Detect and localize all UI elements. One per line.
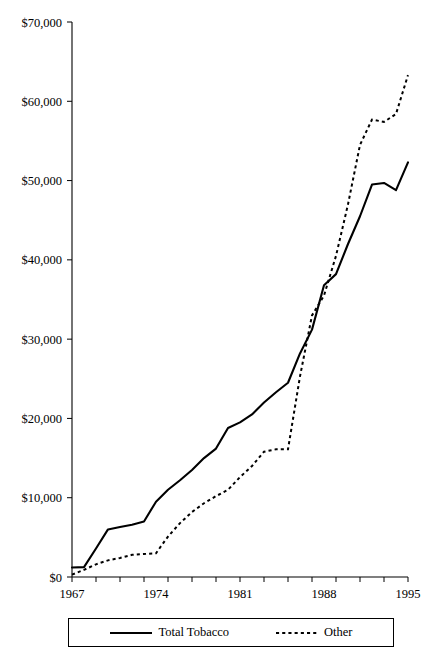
y-tick-label: $60,000: [21, 95, 62, 109]
y-tick-label: $0: [50, 571, 63, 585]
x-tick-label: 1967: [60, 587, 85, 601]
x-tick-label: 1988: [312, 587, 337, 601]
y-tick-label: $30,000: [21, 333, 62, 347]
y-axis-labels: $0$10,000$20,000$30,000$40,000$50,000$60…: [21, 16, 62, 585]
y-tick-label: $50,000: [21, 174, 62, 188]
legend-label-other: Other: [324, 626, 352, 639]
axes: [72, 22, 408, 577]
x-tick-label: 1974: [144, 587, 170, 601]
legend-entry-other: Other: [275, 626, 352, 639]
data-series: [72, 75, 408, 575]
legend-label-total-tobacco: Total Tobacco: [158, 626, 229, 639]
legend-entry-total-tobacco: Total Tobacco: [109, 626, 229, 639]
series-line-total-tobacco: [72, 162, 408, 567]
y-tick-label: $20,000: [21, 412, 62, 426]
x-tick-label: 1995: [396, 587, 421, 601]
x-axis-labels: 19671974198119881995: [60, 587, 421, 601]
y-axis-ticks: [67, 22, 72, 577]
legend-swatch-solid-icon: [109, 628, 153, 638]
chart-container: 19671974198119881995 $0$10,000$20,000$30…: [0, 0, 426, 653]
y-tick-label: $10,000: [21, 491, 62, 505]
y-tick-label: $40,000: [21, 253, 62, 267]
y-tick-label: $70,000: [21, 16, 62, 30]
x-axis-ticks: [72, 577, 408, 582]
series-line-other: [72, 75, 408, 575]
chart-legend: Total Tobacco Other: [68, 618, 394, 647]
legend-swatch-dashed-icon: [275, 628, 319, 638]
line-chart-plot: 19671974198119881995 $0$10,000$20,000$30…: [0, 0, 426, 615]
x-tick-label: 1981: [228, 587, 253, 601]
